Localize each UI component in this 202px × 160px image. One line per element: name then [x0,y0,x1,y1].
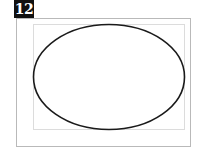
selection-bounding-box[interactable] [33,24,185,130]
resize-handle-middle-right[interactable] [184,74,185,81]
resize-handle-bottom-center[interactable] [106,129,113,130]
resize-handle-middle-left[interactable] [33,74,34,81]
index-badge: 12 [14,0,34,18]
resize-handle-top-center[interactable] [106,24,113,25]
screenshot-root: 12 [0,0,202,160]
